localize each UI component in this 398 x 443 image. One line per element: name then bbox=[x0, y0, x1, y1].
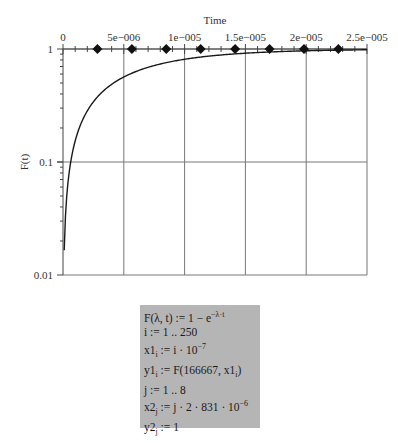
formula-sup: −6 bbox=[240, 399, 249, 408]
formula-text: y1 bbox=[144, 364, 156, 376]
x-tick-label: 1e−005 bbox=[168, 31, 202, 43]
diamond-marker bbox=[299, 44, 309, 54]
x-axis-title: Time bbox=[204, 14, 227, 26]
formula-sup: −7 bbox=[197, 342, 206, 351]
formula-text: x1 bbox=[144, 344, 156, 356]
formula-text: := F(166667, x1 bbox=[158, 364, 235, 376]
diamond-marker bbox=[230, 44, 240, 54]
formula-text: := 1 bbox=[158, 421, 179, 433]
x-tick-label: 0 bbox=[60, 31, 66, 43]
formula-x2: x2j := j · 2 · 831 · 10−6 bbox=[144, 397, 256, 420]
formula-i: i := 1 .. 250 bbox=[144, 325, 256, 340]
diamond-marker bbox=[161, 44, 171, 54]
diamond-marker bbox=[196, 44, 206, 54]
formula-x1: x1i := i · 10−7 bbox=[144, 340, 256, 363]
formula-text: y2 bbox=[144, 421, 156, 433]
formula-text: := j · 2 · 831 · 10 bbox=[158, 401, 240, 413]
formula-j: j := 1 .. 8 bbox=[144, 383, 256, 398]
formula-text: F(λ, t) := 1 − e bbox=[144, 312, 211, 324]
y-axis-title: F(t) bbox=[18, 153, 31, 170]
axes bbox=[57, 44, 367, 275]
diamond-marker bbox=[92, 44, 102, 54]
x-tick-labels: 05e−0061e−0051.5e−0052e−0052.5e−005 bbox=[60, 31, 388, 43]
formula-text: x2 bbox=[144, 401, 156, 413]
x-tick-label: 1.5e−005 bbox=[225, 31, 267, 43]
y-tick-label: 0.01 bbox=[34, 269, 53, 281]
x-tick-label: 5e−006 bbox=[107, 31, 141, 43]
formula-text: i := 1 .. 250 bbox=[144, 326, 197, 338]
y-tick-labels: 0.010.11 bbox=[34, 43, 53, 281]
formula-text: ) bbox=[237, 364, 241, 376]
y-tick-label: 1 bbox=[48, 43, 54, 55]
formula-sup: −λ·t bbox=[211, 310, 224, 319]
formula-y1: y1i := F(166667, x1i) bbox=[144, 363, 256, 383]
diamond-marker bbox=[127, 44, 137, 54]
x-tick-label: 2e−005 bbox=[290, 31, 324, 43]
cdf-curve bbox=[64, 50, 367, 251]
x-tick-label: 2.5e−005 bbox=[346, 31, 388, 43]
formula-F: F(λ, t) := 1 − e−λ·t bbox=[144, 308, 256, 325]
grid-lines bbox=[63, 49, 367, 275]
formula-text: j := 1 .. 8 bbox=[144, 384, 186, 396]
diamond-marker bbox=[333, 44, 343, 54]
chart: Time F(t) 05e−0061e−0051.5e−0052e−0052.5… bbox=[0, 0, 398, 300]
formula-box: F(λ, t) := 1 − e−λ·t i := 1 .. 250 x1i :… bbox=[140, 305, 260, 428]
formula-text: := i · 10 bbox=[158, 344, 198, 356]
y-tick-label: 0.1 bbox=[39, 156, 53, 168]
formula-y2: y2j := 1 bbox=[144, 420, 256, 440]
